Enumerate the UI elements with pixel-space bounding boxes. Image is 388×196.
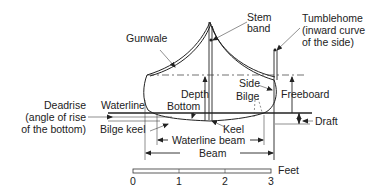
- label-depth: Depth: [181, 88, 209, 100]
- scale-unit: Feet: [278, 164, 299, 176]
- label-stem-band-2: band: [247, 22, 271, 34]
- canoe-cross-section-diagram: Gunwale Stem band Tumblehome (inward cur…: [0, 0, 388, 196]
- label-side: Side: [239, 77, 260, 89]
- label-deadrise-1: Deadrise: [44, 99, 86, 111]
- label-bilge: Bilge: [236, 90, 260, 102]
- label-tumblehome-3: of the side): [302, 36, 354, 48]
- label-bilge-keel: Bilge keel: [100, 123, 146, 135]
- label-gunwale: Gunwale: [126, 32, 168, 44]
- label-tumblehome-2: (inward curve: [302, 24, 365, 36]
- label-waterline-beam: Waterline beam: [172, 134, 245, 146]
- label-bottom: Bottom: [167, 100, 201, 112]
- label-draft: Draft: [315, 115, 338, 127]
- tumblehome-marker: [274, 49, 277, 160]
- label-waterline: Waterline: [101, 99, 145, 111]
- scale-tick-3: 3: [268, 175, 274, 187]
- scale-tick-1: 1: [176, 175, 182, 187]
- scale-tick-0: 0: [130, 175, 136, 187]
- scale-tick-2: 2: [222, 175, 228, 187]
- label-beam: Beam: [199, 147, 227, 159]
- label-deadrise-3: of the bottom): [21, 123, 86, 135]
- label-deadrise-2: (angle of rise: [25, 111, 86, 123]
- label-freeboard: Freeboard: [281, 88, 330, 100]
- scale-bar: 0 1 2 3 Feet: [130, 164, 299, 187]
- label-tumblehome-1: Tumblehome: [302, 12, 363, 24]
